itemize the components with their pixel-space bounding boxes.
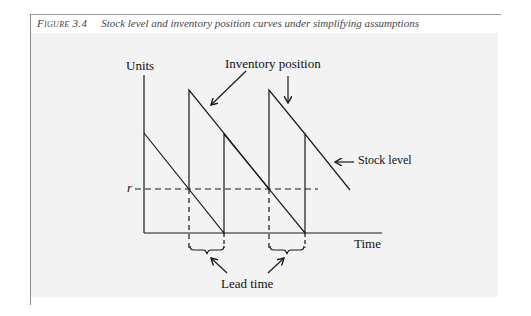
stock-level-label: Stock level <box>358 153 412 168</box>
lead-time-arrow-2 <box>268 258 284 273</box>
inventory-diagram <box>0 0 531 316</box>
x-axis-label: Time <box>354 236 381 252</box>
inventory-position-label: Inventory position <box>225 56 321 72</box>
inventory-position-curve <box>189 90 305 189</box>
reorder-point-label: r <box>127 180 132 196</box>
lead-time-brace-2 <box>270 246 304 254</box>
lead-time-brace-1 <box>190 246 224 254</box>
lead-time-arrow-1 <box>211 258 227 273</box>
y-axis-label: Units <box>126 58 154 74</box>
stock-level-curve <box>144 133 350 233</box>
lead-time-label: Lead time <box>221 276 273 292</box>
inventory-position-arrow-1 <box>211 71 246 105</box>
